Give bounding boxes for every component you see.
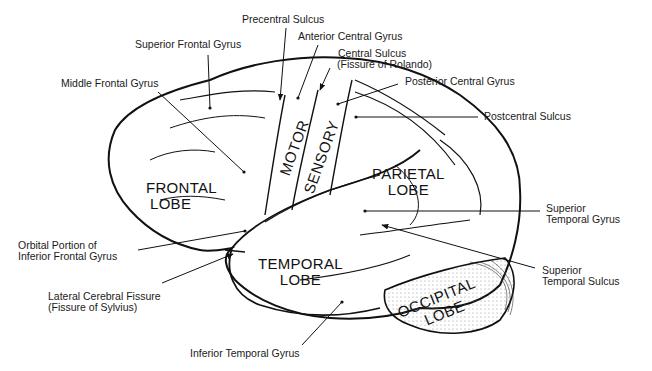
label-anterior-central-gyrus: Anterior Central Gyrus (298, 31, 402, 42)
label-superior-temporal-gyrus-2: Temporal Gyrus (546, 214, 620, 225)
label-posterior-central-gyrus: Posterior Central Gyrus (405, 76, 515, 87)
label-superior-temporal-sulcus-2: Temporal Sulcus (542, 276, 620, 287)
parietal-lobe-line-2: LOBE (372, 182, 445, 198)
parietal-lobe-line-1: PARIETAL (372, 166, 445, 182)
label-lateral-cerebral-fissure-2: (Fissure of Sylvius) (48, 302, 137, 313)
temporal-lobe-line-2: LOBE (258, 272, 343, 288)
label-postcentral-sulcus: Postcentral Sulcus (484, 111, 571, 122)
region-parietal-lobe: PARIETAL LOBE (372, 166, 445, 198)
brain-diagram (0, 0, 652, 371)
label-central-sulcus-alt: (Fissure of Rolando) (337, 59, 432, 70)
temporal-lobe-line-1: TEMPORAL (258, 256, 343, 272)
label-inferior-temporal-gyrus: Inferior Temporal Gyrus (190, 348, 300, 359)
region-frontal-lobe: FRONTAL LOBE (146, 180, 217, 212)
label-middle-frontal-gyrus: Middle Frontal Gyrus (61, 78, 158, 89)
frontal-lobe-line-2: LOBE (146, 196, 217, 212)
label-superior-frontal-gyrus: Superior Frontal Gyrus (135, 39, 241, 50)
label-precentral-sulcus: Precentral Sulcus (242, 14, 324, 25)
label-orbital-portion-2: Inferior Frontal Gyrus (18, 251, 117, 262)
frontal-lobe-line-1: FRONTAL (146, 180, 217, 196)
region-temporal-lobe: TEMPORAL LOBE (258, 256, 343, 288)
